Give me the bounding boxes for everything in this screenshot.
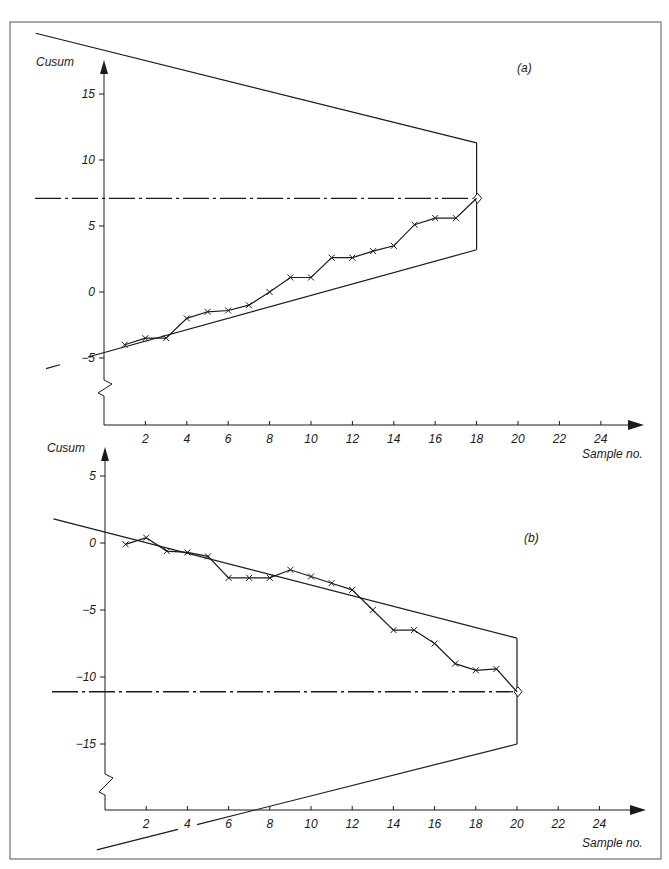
y-axis-line bbox=[99, 457, 113, 810]
y-axis-arrow-icon bbox=[100, 60, 108, 74]
x-tick-label: 4 bbox=[184, 817, 191, 831]
v-mask-lower-arm bbox=[97, 829, 178, 849]
v-mask-lower-arm bbox=[197, 744, 517, 825]
v-mask-vertex-icon bbox=[474, 193, 482, 203]
y-axis-line bbox=[98, 70, 112, 425]
x-axis-arrow-icon bbox=[628, 420, 644, 430]
data-point-x-marker-icon bbox=[412, 222, 418, 228]
chart-a-v-mask bbox=[35, 33, 482, 368]
data-point-x-marker-icon bbox=[123, 541, 129, 547]
x-tick-label: 20 bbox=[510, 432, 525, 446]
chart-b-panel-label: (b) bbox=[524, 531, 539, 545]
x-tick-label: 6 bbox=[225, 817, 232, 831]
chart-a: Cusum (a) Sample no. 2468101214161820222… bbox=[35, 33, 644, 461]
cusum-line bbox=[126, 538, 517, 692]
data-point-x-marker-icon bbox=[432, 641, 438, 647]
y-axis-arrow-icon bbox=[101, 447, 109, 461]
chart-a-xlabel: Sample no. bbox=[582, 447, 643, 461]
y-tick-label: 5 bbox=[89, 469, 96, 483]
data-point-x-marker-icon bbox=[287, 567, 293, 573]
y-tick-label: −5 bbox=[82, 603, 96, 617]
v-mask-vertex-icon bbox=[514, 687, 522, 697]
data-point-x-marker-icon bbox=[370, 607, 376, 613]
x-tick-label: 22 bbox=[552, 432, 567, 446]
chart-b-ylabel: Cusum bbox=[47, 441, 85, 455]
cusum-figure: Cusum (a) Sample no. 2468101214161820222… bbox=[0, 0, 669, 869]
x-tick-label: 12 bbox=[346, 432, 360, 446]
y-tick-label: −10 bbox=[76, 670, 97, 684]
y-tick-label: 10 bbox=[82, 153, 96, 167]
y-tick-label: 0 bbox=[89, 536, 96, 550]
x-tick-label: 20 bbox=[509, 817, 524, 831]
x-tick-label: 16 bbox=[428, 817, 442, 831]
x-tick-label: 6 bbox=[225, 432, 232, 446]
x-tick-label: 4 bbox=[183, 432, 190, 446]
x-tick-label: 8 bbox=[266, 817, 273, 831]
chart-a-ylabel: Cusum bbox=[36, 55, 74, 69]
chart-b: Cusum (b) Sample no. 2468101214161820222… bbox=[47, 441, 646, 850]
data-point-x-marker-icon bbox=[349, 587, 355, 593]
y-tick-label: −15 bbox=[76, 737, 97, 751]
data-point-x-marker-icon bbox=[329, 580, 335, 586]
x-tick-label: 16 bbox=[429, 432, 443, 446]
x-tick-label: 24 bbox=[593, 432, 608, 446]
x-tick-label: 18 bbox=[469, 817, 483, 831]
v-mask-upper-arm bbox=[36, 33, 477, 143]
x-tick-label: 10 bbox=[304, 432, 318, 446]
data-point-x-marker-icon bbox=[143, 535, 149, 541]
x-tick-label: 18 bbox=[470, 432, 484, 446]
x-tick-label: 14 bbox=[387, 432, 401, 446]
data-point-x-marker-icon bbox=[184, 315, 190, 321]
chart-b-xlabel: Sample no. bbox=[582, 836, 643, 850]
chart-a-series bbox=[122, 198, 477, 348]
chart-b-axes: 2468101214161820222450−5−10−15 bbox=[76, 447, 646, 831]
cusum-line bbox=[125, 198, 477, 345]
x-axis-arrow-icon bbox=[630, 805, 646, 815]
x-tick-label: 12 bbox=[346, 817, 360, 831]
data-point-x-marker-icon bbox=[267, 289, 273, 295]
x-tick-label: 2 bbox=[142, 817, 150, 831]
x-tick-label: 24 bbox=[592, 817, 607, 831]
chart-a-axes: 24681012141618202224151050−5 bbox=[81, 60, 644, 446]
y-tick-label: 15 bbox=[82, 87, 96, 101]
chart-a-panel-label: (a) bbox=[517, 61, 532, 75]
x-tick-label: 22 bbox=[551, 817, 566, 831]
x-tick-label: 14 bbox=[387, 817, 401, 831]
y-tick-label: −5 bbox=[81, 351, 95, 365]
data-point-x-marker-icon bbox=[308, 574, 314, 580]
v-mask-lower-arm bbox=[46, 365, 60, 369]
x-tick-label: 10 bbox=[304, 817, 318, 831]
chart-b-v-mask bbox=[52, 519, 522, 850]
x-tick-label: 2 bbox=[141, 432, 149, 446]
y-tick-label: 5 bbox=[88, 219, 95, 233]
x-tick-label: 8 bbox=[266, 432, 273, 446]
data-point-x-marker-icon bbox=[452, 661, 458, 667]
v-mask-lower-arm bbox=[88, 250, 477, 357]
v-mask-upper-arm bbox=[54, 519, 518, 638]
chart-b-series bbox=[123, 535, 517, 692]
y-tick-label: 0 bbox=[88, 285, 95, 299]
